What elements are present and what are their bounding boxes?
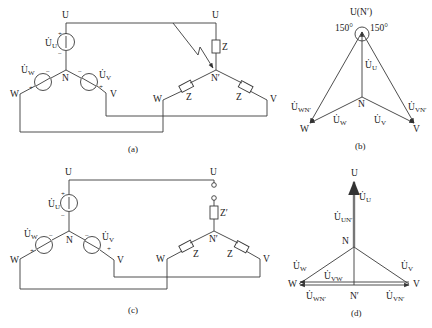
svg-text:U̇W: U̇W [21, 64, 35, 77]
load-node-n-label: N′ [211, 73, 220, 83]
svg-text:V: V [413, 279, 420, 289]
svg-text:U̇UN′: U̇UN′ [334, 211, 353, 224]
svg-text:W: W [300, 124, 309, 134]
circuit-c: U N W V U̇U U̇W U̇V + − + − − + U N′ W V… [10, 167, 270, 315]
svg-text:Z: Z [227, 249, 233, 259]
svg-text:+: + [61, 190, 65, 198]
caption-c: (c) [128, 305, 138, 315]
svg-text:150°: 150° [335, 23, 353, 33]
svg-text:U: U [351, 168, 358, 178]
svg-text:U(N′): U(N′) [350, 7, 372, 18]
svg-text:N: N [66, 235, 73, 245]
impedance-w-icon [179, 80, 194, 92]
svg-text:Z: Z [193, 249, 199, 259]
svg-text:+: + [58, 30, 62, 38]
node-v-label: V [110, 89, 117, 99]
circuit-a: U N W V U̇U U̇W U̇V + − + − − + U N′ W V… [10, 10, 277, 154]
svg-text:V: V [270, 94, 277, 104]
svg-text:Z′: Z′ [220, 208, 228, 218]
svg-text:N: N [342, 236, 349, 246]
phasor-diagram-b: U(N′) 150° 150° N W V U̇U U̇W U̇V U̇WN′ … [291, 7, 427, 151]
svg-text:U̇WN′: U̇WN′ [291, 101, 312, 114]
svg-text:Z: Z [222, 42, 228, 52]
svg-text:U̇V: U̇V [374, 114, 386, 127]
svg-text:U̇W: U̇W [24, 228, 38, 241]
caption-a: (a) [128, 144, 138, 154]
svg-text:U̇VN′: U̇VN′ [408, 101, 427, 114]
svg-text:U̇V: U̇V [401, 260, 413, 273]
short-circuit-arrow-icon [173, 23, 213, 68]
svg-text:+: + [30, 247, 34, 255]
svg-text:U̇V: U̇V [99, 69, 111, 82]
svg-text:W: W [10, 255, 19, 265]
svg-text:W: W [153, 94, 162, 104]
svg-text:N′: N′ [209, 234, 218, 244]
svg-text:+: + [107, 245, 111, 253]
svg-text:V: V [413, 124, 420, 134]
node-w-label: W [10, 89, 19, 99]
svg-text:Z: Z [186, 92, 192, 102]
svg-text:U̇U: U̇U [45, 37, 57, 50]
svg-text:+: + [99, 83, 103, 91]
svg-text:−: − [46, 68, 50, 76]
svg-text:U̇W: U̇W [293, 260, 307, 273]
svg-text:V: V [117, 255, 124, 265]
svg-text:U̇U: U̇U [48, 198, 60, 211]
svg-text:U̇VW: U̇VW [324, 270, 343, 283]
node-n-label: N [62, 73, 69, 83]
svg-text:150°: 150° [370, 23, 388, 33]
svg-text:W: W [288, 279, 297, 289]
circuit-figure: U N W V U̇U U̇W U̇V + − + − − + U N′ W V… [0, 0, 432, 328]
svg-text:V: V [263, 254, 270, 264]
svg-text:−: − [58, 50, 62, 58]
svg-text:−: − [78, 68, 82, 76]
svg-text:U: U [210, 167, 217, 177]
svg-text:Z: Z [236, 92, 242, 102]
caption-d: (d) [351, 308, 362, 318]
caption-b: (b) [355, 141, 366, 151]
svg-text:N′: N′ [350, 291, 359, 301]
svg-text:−: − [85, 232, 89, 240]
load-node-u-label: U [212, 10, 219, 20]
svg-text:U̇U: U̇U [359, 191, 371, 204]
svg-text:U̇WN′: U̇WN′ [306, 290, 327, 303]
svg-text:U: U [65, 167, 72, 177]
svg-text:U̇V: U̇V [102, 231, 114, 244]
svg-text:W: W [156, 254, 165, 264]
svg-text:−: − [61, 212, 65, 220]
svg-text:N: N [358, 99, 365, 109]
svg-text:−: − [49, 232, 53, 240]
svg-text:U̇W: U̇W [333, 114, 347, 127]
svg-text:+: + [29, 84, 33, 92]
phasor-diagram-d: U U̇U U̇UN′ N U̇W U̇V U̇VW W V U̇WN′ N′ … [288, 168, 420, 318]
node-u-label: U [62, 10, 69, 20]
svg-text:U̇U: U̇U [365, 59, 377, 72]
impedance-u-icon [212, 40, 220, 53]
svg-text:U̇VN′: U̇VN′ [386, 290, 405, 303]
